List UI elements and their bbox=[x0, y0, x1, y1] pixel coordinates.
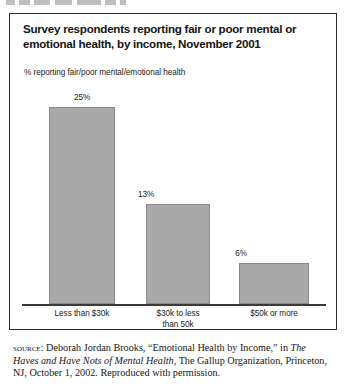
bar-value-label: 25% bbox=[49, 93, 115, 102]
x-axis-label-0: Less than $30k bbox=[34, 309, 130, 320]
source-text-part-1: Deborah Jordan Brooks, “Emotional Health… bbox=[44, 342, 291, 353]
x-axis-label-1: $30k to less than 50k bbox=[130, 309, 226, 330]
x-axis-label-1-line-1: $30k to less bbox=[130, 309, 226, 320]
bar-50k-or-more[interactable] bbox=[239, 263, 309, 304]
bar-chart-plot: 25% Less than $30k 13% $30k to less than… bbox=[10, 14, 336, 329]
x-axis-label-2: $50k or more bbox=[226, 309, 322, 320]
bar-30k-to-less-than-50k[interactable] bbox=[146, 204, 210, 304]
x-axis-label-1-line-2: than 50k bbox=[130, 320, 226, 331]
bar-value-label: 13% bbox=[113, 190, 179, 199]
source-note: source: Deborah Jordan Brooks, “Emotiona… bbox=[13, 342, 333, 380]
x-axis-line bbox=[22, 304, 326, 306]
source-label: source: bbox=[13, 342, 44, 353]
page-header-artifact bbox=[6, 0, 126, 5]
bar-value-label: 6% bbox=[206, 249, 276, 258]
figure-box: Survey respondents reporting fair or poo… bbox=[9, 13, 337, 330]
bar-less-than-30k[interactable] bbox=[49, 107, 115, 304]
